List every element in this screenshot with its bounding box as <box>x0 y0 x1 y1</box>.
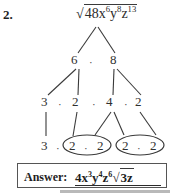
answer-underline <box>75 185 161 186</box>
answer-radicand: 3z <box>120 168 134 186</box>
tree-node-2-level4-b: 2 <box>97 139 104 152</box>
tree-node-4-level3: 4 <box>106 95 113 108</box>
tree-dot-level4-c: · <box>137 143 141 154</box>
answer-exp-y: 4 <box>99 170 103 179</box>
branch-root-to-6 <box>78 27 96 53</box>
worksheet-page: 2. √48x6y8z13 6 · 8 3 · 2 · 4 · 2 3 · <box>0 0 178 194</box>
tree-node-8: 8 <box>110 53 117 66</box>
tree-dot-level4-a: · <box>56 143 60 154</box>
tree-dot-level2: · <box>89 57 93 68</box>
tree-dot-level4-b: · <box>84 143 88 154</box>
answer-radical-sign: √ <box>112 170 119 185</box>
branch-6-to-3 <box>48 69 76 95</box>
branch-8-to-2 <box>117 69 141 95</box>
answer-radical-group: √3z <box>112 168 133 186</box>
answer-label: Answer: <box>24 170 67 185</box>
tree-node-2-level4-a: 2 <box>69 139 76 152</box>
tree-dot-level3-c: · <box>124 99 128 110</box>
answer-var-x: x3 <box>82 170 93 185</box>
branch-2-to-2 <box>73 112 77 136</box>
tree-node-3-level4: 3 <box>41 139 48 152</box>
tree-node-2-level4-c: 2 <box>122 139 129 152</box>
tree-node-2-level3-a: 2 <box>72 95 79 108</box>
answer-box: Answer: 4x3y4z6√3z <box>17 163 167 188</box>
answer-var-y: y4 <box>92 170 103 185</box>
tree-node-6: 6 <box>71 53 78 66</box>
branch-4-to-2a <box>95 112 111 135</box>
branch-root-to-8 <box>98 27 115 53</box>
tree-dot-level3-a: · <box>58 99 62 110</box>
tree-node-2-level3-b: 2 <box>135 95 142 108</box>
bottom-shade-bar <box>60 190 170 193</box>
answer-coefficient: 4 <box>75 170 82 185</box>
branch-8-to-4 <box>113 69 114 95</box>
answer-value: 4x3y4z6√3z <box>75 168 134 186</box>
tree-node-2-level4-d: 2 <box>150 139 157 152</box>
branch-4-to-2b <box>114 112 124 135</box>
answer-var-z: z6 <box>103 170 113 185</box>
tree-dot-level3-b: · <box>92 99 96 110</box>
tree-node-3-level3: 3 <box>41 95 48 108</box>
branch-2-to-2b <box>140 112 156 135</box>
branch-6-to-2 <box>78 69 79 95</box>
